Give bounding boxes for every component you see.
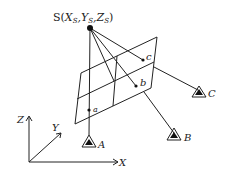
ray-c-to-C	[154, 67, 198, 90]
z-axis-label: Z	[16, 114, 25, 125]
image-point-a-label: a	[93, 105, 98, 114]
x-axis-label: X	[118, 157, 127, 168]
image-point-a-dot	[87, 108, 90, 111]
ground-point-A-label: A	[97, 139, 105, 150]
image-point-c-label: c	[146, 51, 152, 62]
ray-s-to-b	[90, 28, 136, 86]
ground-point-A-triangle-icon	[82, 135, 96, 147]
ground-point-C-label: C	[208, 88, 216, 99]
collinearity-diagram: S(XS,YS,ZS) a b c A B C Z Y X	[0, 0, 231, 183]
image-point-b-label: b	[140, 77, 146, 88]
projection-center-dot	[87, 25, 93, 31]
ground-point-B-triangle-icon	[167, 128, 181, 140]
image-point-c-dot	[141, 58, 144, 61]
ray-s-to-c	[90, 28, 143, 60]
y-axis-label: Y	[52, 122, 60, 133]
image-point-b-dot	[134, 84, 137, 87]
ray-s-to-a	[89, 28, 90, 135]
y-axis	[29, 133, 61, 162]
ray-b-to-B	[144, 92, 174, 133]
ground-point-B-label: B	[183, 132, 191, 143]
projection-center-label: S(XS,YS,ZS)	[53, 11, 113, 25]
